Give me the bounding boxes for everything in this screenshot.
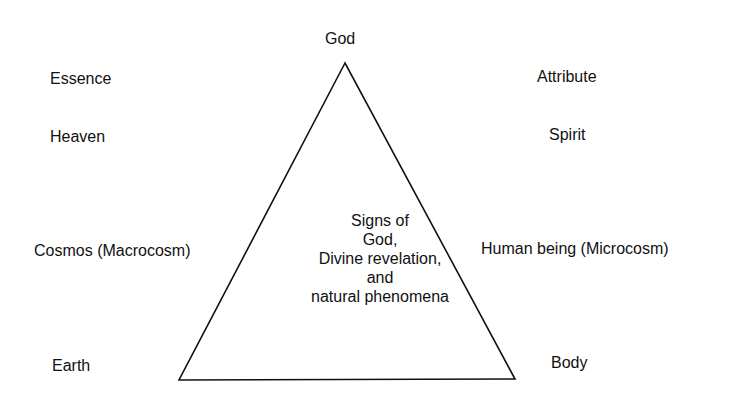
label-spirit: Spirit [549,125,585,144]
label-body: Body [551,353,587,372]
center-text-block: Signs of God, Divine revelation, and nat… [278,211,482,306]
center-line-god: God, [278,230,482,249]
label-human-being: Human being (Microcosm) [481,239,669,258]
center-line-divine-revelation: Divine revelation, [278,249,482,268]
center-line-signs-of: Signs of [278,211,482,230]
apex-label-god: God [325,29,355,48]
center-line-natural-phenomena: natural phenomena [278,287,482,306]
label-heaven: Heaven [50,127,105,146]
triangle-shape [0,0,755,400]
label-earth: Earth [52,356,90,375]
label-cosmos: Cosmos (Macrocosm) [34,241,190,260]
label-attribute: Attribute [537,67,597,86]
label-essence: Essence [50,69,111,88]
center-line-and: and [278,268,482,287]
